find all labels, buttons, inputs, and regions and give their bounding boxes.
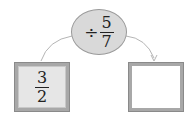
operation-expression: ÷ 5 7	[84, 15, 113, 50]
operation-ellipse: ÷ 5 7	[71, 9, 127, 55]
output-answer-box[interactable]	[128, 62, 184, 112]
operation-numerator: 5	[100, 15, 114, 31]
operation-denominator: 7	[100, 34, 114, 50]
input-box: 3 2	[14, 62, 70, 112]
input-box-inner-border	[18, 66, 66, 108]
divide-sign: ÷	[84, 24, 98, 41]
operation-fraction: 5 7	[100, 15, 114, 50]
output-connector	[126, 36, 154, 58]
input-connector	[41, 36, 72, 61]
